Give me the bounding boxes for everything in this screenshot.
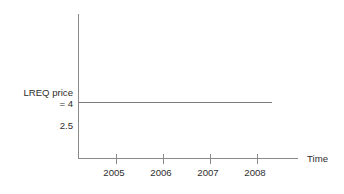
x-axis-tick-label-2006: 2006: [150, 167, 171, 178]
y-axis-label-line-1: LREQ price: [23, 87, 73, 98]
x-axis-tick-label-2005: 2005: [103, 167, 124, 178]
chart-figure: 2005 2006 2007 2008 LREQ price = 4 2.5 T…: [0, 0, 344, 194]
x-axis-title: Time: [307, 153, 328, 164]
y-axis-tick-label-2point5: 2.5: [60, 120, 73, 131]
x-axis-tick-label-2007: 2007: [197, 167, 218, 178]
x-axis-tick-label-2008: 2008: [244, 167, 265, 178]
y-axis-label-line-2: = 4: [59, 98, 73, 109]
chart-canvas: 2005 2006 2007 2008 LREQ price = 4 2.5 T…: [0, 0, 344, 194]
